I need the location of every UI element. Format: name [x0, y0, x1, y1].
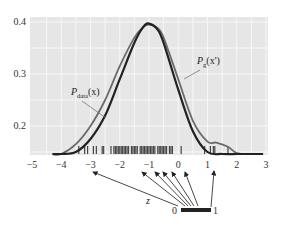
x-tick-label: 2 — [234, 159, 239, 170]
mapping-arrow — [211, 171, 214, 207]
range-start-label: 0 — [172, 205, 177, 216]
x-tick-label: −2 — [114, 159, 125, 170]
x-tick-label: 1 — [205, 159, 210, 170]
x-tick-label: −1 — [144, 159, 155, 170]
mapping-arrow — [93, 172, 178, 206]
x-tick-label: −5 — [27, 159, 38, 170]
z-label: z — [145, 195, 150, 206]
y-axis-ticks: 0.40.30.2 — [14, 16, 27, 131]
y-tick-label: 0.4 — [14, 16, 27, 27]
x-axis-ticks: −5−4−3−2−10123 — [27, 159, 269, 170]
range-end-label: 1 — [213, 205, 218, 216]
x-tick-label: −3 — [85, 159, 96, 170]
uniform-range-bar — [181, 208, 211, 212]
x-tick-label: 0 — [176, 159, 181, 170]
y-tick-label: 0.3 — [14, 68, 27, 79]
mapping-arrows — [93, 171, 214, 207]
x-tick-label: −4 — [56, 159, 67, 170]
y-tick-label: 0.2 — [14, 120, 27, 131]
chart: −5−4−3−2−10123 0.40.30.2 Pdata(x) Pg(x')… — [0, 0, 282, 230]
x-tick-label: 3 — [264, 159, 269, 170]
